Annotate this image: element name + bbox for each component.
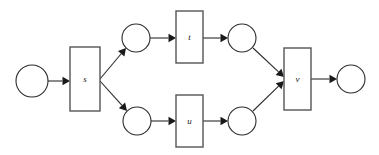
transition-label: s: [83, 74, 87, 84]
arc-line: [100, 54, 121, 79]
arrowhead-icon: [221, 34, 229, 42]
transition-label: u: [187, 116, 192, 126]
petri-net-canvas: stuv: [0, 0, 379, 155]
place-node[interactable]: [122, 24, 150, 52]
transition-label: v: [296, 74, 300, 84]
place-node[interactable]: [16, 65, 48, 97]
arc-line: [253, 86, 279, 111]
arrowhead-icon: [118, 48, 126, 56]
place-node[interactable]: [228, 107, 256, 135]
arrowhead-icon: [169, 117, 177, 125]
place-node[interactable]: [123, 107, 151, 135]
transition-layer: stuv: [70, 11, 311, 147]
place-node[interactable]: [337, 65, 365, 93]
place-node[interactable]: [228, 24, 256, 52]
petri-net-diagram: stuv: [0, 0, 379, 155]
arrowhead-icon: [221, 117, 229, 125]
arrowhead-icon: [63, 77, 71, 85]
arc-line: [253, 48, 279, 72]
arrowhead-icon: [169, 34, 177, 42]
arrowhead-icon: [330, 75, 338, 83]
arc-line: [100, 81, 122, 105]
